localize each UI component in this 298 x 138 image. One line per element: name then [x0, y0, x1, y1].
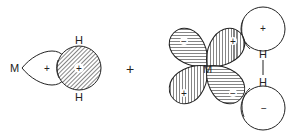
metal-label-right: M [203, 63, 212, 75]
plus-operator: + [126, 61, 134, 77]
h-label-top-left: H [75, 34, 83, 46]
right-group: − + + − M + H H − [163, 7, 285, 130]
h-label-bottom-right: H [259, 76, 267, 88]
d-lobe-sign-lower-left: + [181, 88, 187, 99]
h-orbital-sign-top-right: + [260, 23, 266, 34]
orbital-diagram: M + + H H + − + + − [0, 0, 298, 138]
metal-lobe-sign-left: + [44, 63, 50, 74]
h-label-bottom-left: H [75, 91, 83, 103]
d-lobe-sign-upper-right: + [230, 36, 236, 47]
metal-label-left: M [10, 62, 19, 74]
h-orbital-sign-bottom-right: − [261, 103, 267, 114]
d-lobe-sign-upper-left: − [181, 36, 187, 47]
d-lobe-sign-lower-right: − [230, 88, 236, 99]
h-orbital-sign-left: + [76, 63, 82, 74]
h-label-top-right: H [259, 48, 267, 60]
left-group: M + + H H [10, 34, 101, 103]
